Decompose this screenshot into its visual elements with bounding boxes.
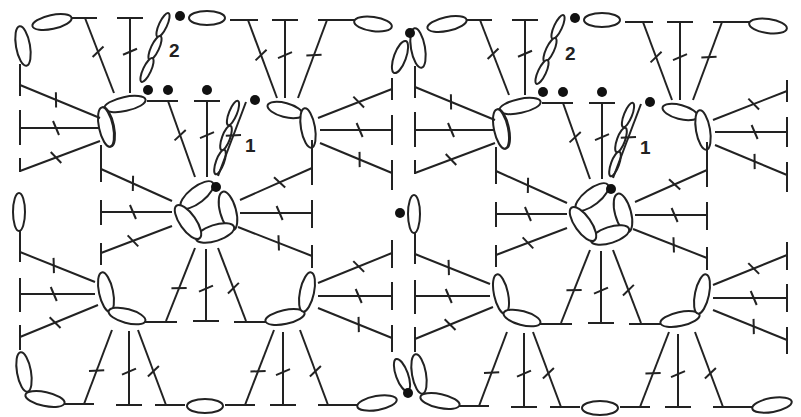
- round-2-label-left: 2: [169, 40, 180, 61]
- double-crochet-icon: [298, 20, 327, 98]
- double-crochet-icon: [713, 91, 787, 120]
- chain-stitch-icon: [266, 99, 304, 122]
- chain-stitch-icon: [748, 16, 788, 35]
- chain-stitch-icon: [13, 25, 34, 67]
- chain-stitch-icon: [13, 193, 25, 231]
- chain-stitch-icon: [541, 37, 559, 64]
- crochet-chart: 1 2 1 2: [0, 0, 801, 417]
- double-crochet-icon: [511, 333, 537, 407]
- double-crochet-icon: [318, 289, 392, 303]
- double-crochet-icon: [667, 22, 693, 100]
- slip-stitch-icon: [163, 85, 173, 95]
- double-crochet-icon: [84, 330, 112, 404]
- chain-stitch-icon: [490, 273, 512, 315]
- double-crochet-icon: [479, 332, 507, 406]
- chain-stitch-icon: [391, 357, 414, 393]
- slip-stitch-icon: [143, 85, 153, 95]
- chain-stitch-icon: [426, 13, 468, 35]
- chain-stitch-icon: [95, 271, 117, 313]
- slip-stitch-icon: [645, 97, 655, 107]
- double-crochet-icon: [85, 18, 114, 93]
- slip-stitch-icon: [403, 388, 413, 398]
- double-crochet-icon: [318, 253, 392, 283]
- double-crochet-icon: [318, 89, 392, 118]
- chain-stitch-icon: [31, 11, 73, 33]
- double-crochet-icon: [635, 208, 707, 222]
- double-crochet-icon: [693, 22, 722, 100]
- double-crochet-icon: [635, 170, 707, 202]
- chain-stitch-icon: [187, 399, 223, 413]
- chain-stitch-icon: [584, 13, 620, 27]
- double-crochet-icon: [20, 121, 100, 135]
- round-2-label-right: 2: [565, 43, 576, 64]
- double-crochet-icon: [320, 123, 392, 137]
- double-crochet-icon: [270, 332, 296, 405]
- double-crochet-icon: [715, 145, 787, 175]
- slip-stitch-icon: [202, 85, 212, 95]
- chain-stitch-icon: [353, 14, 393, 33]
- double-crochet-icon: [496, 207, 567, 221]
- chain-stitch-icon: [502, 306, 542, 329]
- double-crochet-icon: [665, 334, 691, 407]
- double-crochet-icon: [563, 103, 590, 179]
- double-crochet-icon: [415, 87, 495, 120]
- slip-stitch-icon: [538, 87, 548, 97]
- slip-stitch-icon: [405, 28, 415, 38]
- double-crochet-icon: [101, 169, 172, 201]
- double-crochet-icon: [20, 141, 100, 171]
- double-crochet-icon: [20, 287, 95, 301]
- double-crochet-icon: [20, 252, 95, 282]
- double-crochet-icon: [320, 143, 392, 173]
- chain-stitch-icon: [582, 401, 618, 415]
- chain-stitch-icon: [298, 107, 319, 149]
- double-crochet-icon: [238, 227, 312, 256]
- chain-stitch-icon: [138, 57, 156, 84]
- double-crochet-icon: [116, 331, 142, 405]
- double-crochet-icon: [300, 330, 328, 405]
- double-crochet-icon: [415, 254, 490, 284]
- chain-stitch-icon: [296, 271, 318, 313]
- double-crochet-icon: [138, 330, 166, 405]
- double-crochet-icon: [496, 171, 567, 203]
- chain-stitch-icon: [389, 39, 412, 75]
- double-crochet-icon: [245, 330, 274, 405]
- double-crochet-icon: [640, 332, 669, 407]
- double-crochet-icon: [533, 332, 561, 407]
- double-crochet-icon: [695, 332, 723, 407]
- chain-stitch-icon: [661, 101, 699, 124]
- chain-stitch-icon: [533, 59, 551, 86]
- slip-stitch-icon: [395, 208, 405, 218]
- motif-right: [408, 13, 793, 415]
- double-crochet-icon: [240, 168, 312, 200]
- double-crochet-icon: [415, 307, 493, 339]
- slip-stitch-icon: [211, 182, 221, 192]
- chain-stitch-icon: [14, 351, 35, 393]
- double-crochet-icon: [168, 101, 195, 177]
- double-crochet-icon: [117, 18, 143, 93]
- chain-stitch-icon: [693, 109, 714, 151]
- double-crochet-icon: [415, 123, 495, 137]
- double-crochet-icon: [248, 20, 277, 98]
- double-crochet-icon: [715, 125, 787, 139]
- slip-stitch-icon: [558, 87, 568, 97]
- chain-stitch-icon: [549, 14, 567, 41]
- round-1-label-left: 1: [245, 135, 256, 156]
- double-crochet-icon: [272, 20, 298, 98]
- chain-stitch-icon: [409, 353, 430, 395]
- chain-stitch-icon: [154, 12, 172, 39]
- double-crochet-icon: [613, 250, 641, 323]
- double-crochet-icon: [713, 310, 787, 340]
- slip-stitch-icon: [570, 13, 580, 23]
- chain-stitch-icon: [356, 393, 398, 414]
- double-crochet-icon: [101, 226, 172, 253]
- slip-stitch-icon: [175, 11, 185, 21]
- double-crochet-icon: [166, 248, 195, 321]
- slip-stitch-icon: [597, 87, 607, 97]
- motif-left: [13, 11, 398, 413]
- double-crochet-icon: [633, 229, 707, 258]
- chain-stitch-icon: [146, 35, 164, 62]
- chain-stitch-icon: [189, 11, 225, 25]
- double-crochet-icon: [588, 251, 614, 323]
- double-crochet-icon: [101, 205, 172, 219]
- double-crochet-icon: [512, 20, 538, 95]
